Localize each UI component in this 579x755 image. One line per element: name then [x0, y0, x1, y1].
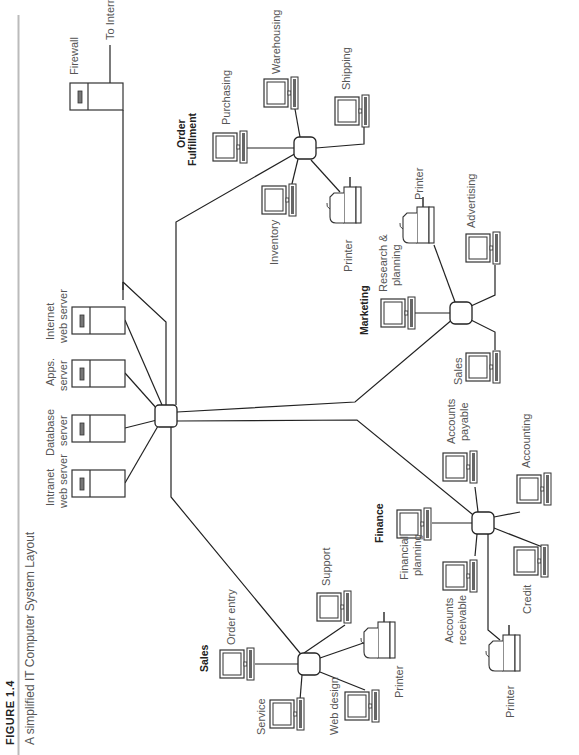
node-label: Advertising — [465, 174, 477, 228]
server-label: Database — [44, 409, 56, 456]
node-label: Financial — [398, 536, 410, 580]
workstation-icon — [443, 560, 477, 592]
group-order-fulfillment: Order Fulfillment Purchasing Warehousing… — [175, 10, 369, 272]
server-label: web server — [57, 289, 69, 344]
group-title: Fulfillment — [186, 112, 198, 166]
node-label: Purchasing — [220, 70, 232, 125]
printer-icon — [361, 612, 395, 658]
figure-number: FIGURE 1.4 — [4, 680, 16, 745]
server-label: web server — [57, 454, 69, 509]
node-label: Printer — [393, 665, 405, 698]
server-icon — [72, 360, 125, 387]
node-label: receivable — [456, 595, 468, 645]
firewall-label: Firewall — [68, 37, 80, 75]
workstation-icon — [262, 184, 296, 216]
workstation-icon — [317, 591, 351, 623]
server-label: Internet — [44, 303, 56, 340]
workstation-icon — [381, 297, 415, 329]
order-fulfillment-hub — [294, 137, 316, 159]
group-title: Finance — [373, 503, 385, 543]
marketing-hub — [450, 302, 472, 324]
node-label: Support — [320, 547, 332, 586]
workstation-icon — [213, 131, 247, 163]
node-label: Research & — [377, 234, 389, 292]
workstation-icon — [345, 690, 379, 722]
workstation-icon — [514, 545, 548, 577]
server-label: Intranet — [44, 469, 56, 506]
node-label: Inventory — [268, 219, 280, 265]
workstation-icon — [270, 698, 304, 730]
server-icon — [72, 415, 125, 442]
node-label: Printer — [342, 239, 354, 272]
node-label: Service — [255, 698, 267, 735]
node-label: Accounting — [520, 414, 532, 468]
node-label: payable — [458, 402, 470, 441]
server-icon — [72, 470, 125, 497]
node-label: Warehousing — [270, 10, 282, 74]
node-label: planning — [390, 244, 402, 286]
printer-icon — [400, 197, 434, 243]
server-label: server — [57, 415, 69, 446]
node-label: Accounts — [443, 597, 455, 643]
firewall-icon — [70, 83, 123, 110]
workstation-icon — [443, 451, 477, 483]
group-marketing: Marketing Research & planning Printer Ad… — [358, 167, 500, 385]
group-title: Sales — [198, 644, 210, 672]
node-label: Web design — [328, 677, 340, 735]
group-sales: Sales Order entry Support Service Web de… — [198, 547, 405, 735]
node-label: Credit — [521, 585, 533, 614]
figure-caption: A simplified IT Computer System Layout — [23, 531, 37, 745]
node-label: Accounts — [445, 398, 457, 444]
workstation-icon — [466, 351, 500, 383]
finance-hub — [472, 512, 494, 534]
server-label: Apps. — [44, 358, 56, 386]
node-label: Printer — [413, 167, 425, 200]
core-hub — [155, 405, 177, 427]
node-label: Sales — [452, 357, 464, 385]
server-label: server — [57, 360, 69, 391]
group-title: Marketing — [358, 285, 370, 335]
node-label: Order entry — [225, 589, 237, 645]
workstation-icon — [466, 232, 500, 264]
workstation-icon — [264, 77, 298, 109]
node-label: Shipping — [340, 47, 352, 90]
it-system-diagram: FIGURE 1.4 A simplified IT Computer Syst… — [0, 0, 579, 755]
server-icon — [72, 307, 125, 334]
to-internet-label: To Internet — [104, 0, 116, 40]
workstation-icon — [517, 473, 551, 505]
workstation-icon — [335, 95, 369, 127]
node-label: Printer — [504, 685, 516, 718]
workstation-icon — [220, 648, 254, 680]
sales-hub — [298, 653, 320, 675]
node-label: planning — [411, 534, 423, 576]
